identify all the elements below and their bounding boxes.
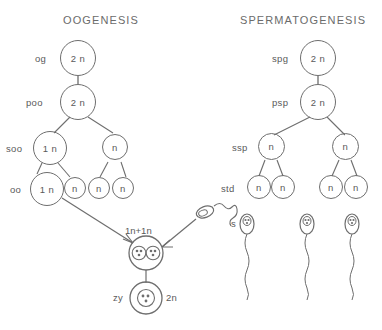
spermatozoon bbox=[345, 214, 359, 300]
line-ssp-std2 bbox=[277, 160, 283, 176]
fertilizing-sperm-head bbox=[195, 204, 216, 220]
zygote-nucleus bbox=[138, 290, 155, 307]
cell-ovum[interactable]: 1 n bbox=[30, 172, 64, 206]
label-primary-oocyte: poo bbox=[26, 97, 43, 108]
line-pb1-pb4 bbox=[121, 162, 126, 177]
cell-spermatid[interactable]: n bbox=[247, 175, 271, 199]
cell-primary-oocyte[interactable]: 2 n bbox=[60, 84, 96, 120]
heading-oogenesis: OOGENESIS bbox=[63, 14, 139, 26]
line-sspr-std3 bbox=[332, 160, 339, 176]
line-pb1-pb3 bbox=[100, 162, 108, 177]
line-psp-ssp bbox=[274, 117, 310, 135]
diagram-canvas: OOGENESIS SPERMATOGENESIS 2 n og 2 n poo… bbox=[0, 0, 382, 330]
label-spermatozoon: s bbox=[231, 218, 236, 229]
heading-spermatogenesis: SPERMATOGENESIS bbox=[240, 14, 366, 26]
label-secondary-spermatocyte: ssp bbox=[232, 142, 248, 153]
cell-secondary-spermatocyte[interactable]: n bbox=[258, 133, 285, 160]
cell-spermatid[interactable]: n bbox=[344, 175, 368, 199]
label-spermatid: std bbox=[221, 183, 235, 194]
zygote-chromatin-dot bbox=[142, 295, 145, 298]
polar-body[interactable]: n bbox=[64, 177, 86, 199]
label-ovum: oo bbox=[10, 184, 21, 195]
spermatozoon bbox=[300, 214, 314, 300]
fertilizing-sperm-nucleus bbox=[198, 209, 208, 217]
line-poo-soo bbox=[54, 117, 70, 133]
line-ssp-std1 bbox=[259, 160, 265, 176]
label-primary-spermatocyte: psp bbox=[272, 97, 288, 108]
male-chromatin-dot bbox=[154, 250, 157, 253]
female-chromatin-dot bbox=[136, 250, 139, 253]
male-pronucleus bbox=[146, 246, 160, 260]
arrow-ovum-to-zygote bbox=[62, 198, 133, 243]
cell-oogonium[interactable]: 2 n bbox=[60, 40, 96, 76]
cell-spermatid[interactable]: n bbox=[271, 175, 295, 199]
cell-secondary-spermatocyte-right[interactable]: n bbox=[332, 133, 359, 160]
label-spermatogonium: spg bbox=[272, 53, 288, 64]
label-secondary-oocyte: soo bbox=[6, 143, 22, 154]
zygote-chromatin-dot bbox=[147, 295, 150, 298]
male-chromatin-dot bbox=[152, 254, 155, 257]
female-chromatin-dot bbox=[138, 254, 141, 257]
zygote-membrane bbox=[130, 282, 162, 314]
line-soo-pb2 bbox=[58, 163, 70, 177]
cell-spermatogonium[interactable]: 2 n bbox=[300, 40, 336, 76]
spermatozoon bbox=[240, 214, 254, 300]
label-zygote-forming: 1n+1n bbox=[125, 225, 152, 236]
line-poo-pb1 bbox=[88, 117, 113, 133]
cell-secondary-oocyte[interactable]: 1 n bbox=[33, 131, 67, 165]
label-oogonium: og bbox=[35, 53, 46, 64]
female-chromatin-dot bbox=[140, 250, 143, 253]
cell-primary-spermatocyte[interactable]: 2 n bbox=[300, 84, 336, 120]
polar-body-first[interactable]: n bbox=[102, 134, 128, 160]
arrowhead-sperm bbox=[162, 240, 173, 247]
polar-body[interactable]: n bbox=[112, 177, 134, 199]
cell-spermatid[interactable]: n bbox=[319, 175, 343, 199]
label-zygote: zy bbox=[113, 292, 123, 303]
male-chromatin-dot bbox=[150, 250, 153, 253]
zygote-chromatin-dot bbox=[145, 300, 148, 303]
label-zygote-ploidy: 2n bbox=[166, 292, 177, 303]
line-sspr-std4 bbox=[351, 160, 357, 176]
polar-body[interactable]: n bbox=[88, 177, 110, 199]
female-pronucleus bbox=[132, 246, 146, 260]
